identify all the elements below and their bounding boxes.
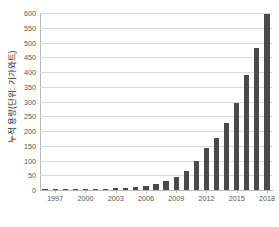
y-tick-label: 100 xyxy=(0,156,36,165)
y-tick-label: 450 xyxy=(0,53,36,62)
x-tick-label: 2006 xyxy=(138,194,154,203)
y-tick-label: 0 xyxy=(0,186,36,195)
x-tick-mark xyxy=(237,190,238,193)
x-tick-label: 2000 xyxy=(77,194,93,203)
x-tick-mark xyxy=(85,190,86,193)
x-tick-label: 1997 xyxy=(47,194,63,203)
x-tick-label: 2003 xyxy=(108,194,124,203)
x-axis-line xyxy=(40,190,273,191)
gridline xyxy=(40,28,272,29)
gridline xyxy=(40,87,272,88)
y-tick-label: 300 xyxy=(0,97,36,106)
x-tick-mark xyxy=(55,190,56,193)
y-tick-label: 550 xyxy=(0,23,36,32)
y-tick-label: 50 xyxy=(0,171,36,180)
bar-2009 xyxy=(174,177,179,190)
bar-2001 xyxy=(93,189,98,190)
y-tick-label: 350 xyxy=(0,82,36,91)
bar-1996 xyxy=(42,189,47,190)
y-tick-label: 400 xyxy=(0,68,36,77)
bar-2010 xyxy=(184,171,189,190)
bar-2007 xyxy=(153,184,158,190)
x-tick-label: 2012 xyxy=(198,194,214,203)
y-tick-label: 500 xyxy=(0,38,36,47)
y-tick-label: 150 xyxy=(0,141,36,150)
gridline xyxy=(40,13,272,14)
x-tick-mark xyxy=(206,190,207,193)
bar-1998 xyxy=(63,189,68,190)
y-axis-title: 누적 용량(단위: 기가와트) xyxy=(7,41,17,153)
bar-2014 xyxy=(224,123,229,190)
bar-2011 xyxy=(194,161,199,190)
bar-1999 xyxy=(73,189,78,190)
bar-2012 xyxy=(204,148,209,190)
x-tick-mark xyxy=(146,190,147,193)
x-tick-mark xyxy=(116,190,117,193)
bar-2002 xyxy=(103,189,108,190)
bar-2013 xyxy=(214,138,219,190)
solar-capacity-bar-chart: 누적 용량(단위: 기가와트) 050100150200250300350400… xyxy=(0,0,279,227)
y-tick-label: 600 xyxy=(0,9,36,18)
bar-2017 xyxy=(254,48,259,190)
y-tick-label: 250 xyxy=(0,112,36,121)
bar-2005 xyxy=(133,187,138,190)
x-tick-mark xyxy=(176,190,177,193)
y-tick-label: 200 xyxy=(0,127,36,136)
x-tick-label: 2018 xyxy=(259,194,275,203)
bar-2015 xyxy=(234,103,239,190)
gridline xyxy=(40,72,272,73)
plot-area xyxy=(40,13,272,190)
bar-2016 xyxy=(244,75,249,190)
bar-2004 xyxy=(123,188,128,190)
x-tick-label: 2015 xyxy=(229,194,245,203)
gridline xyxy=(40,57,272,58)
bar-2008 xyxy=(163,181,168,190)
bar-2018 xyxy=(264,14,269,190)
gridline xyxy=(40,43,272,44)
x-tick-label: 2009 xyxy=(168,194,184,203)
x-tick-mark xyxy=(267,190,268,193)
